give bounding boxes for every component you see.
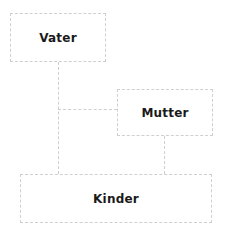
node-vater: Vater <box>10 13 106 62</box>
node-label: Mutter <box>141 106 188 120</box>
node-label: Vater <box>39 31 77 45</box>
node-kinder: Kinder <box>20 174 212 223</box>
connector-mutter-to-kinder <box>164 136 165 174</box>
node-label: Kinder <box>93 192 139 206</box>
node-mutter: Mutter <box>117 89 213 136</box>
connector-vater-to-mutter <box>58 109 117 110</box>
connector-vater-to-kinder <box>58 62 59 174</box>
